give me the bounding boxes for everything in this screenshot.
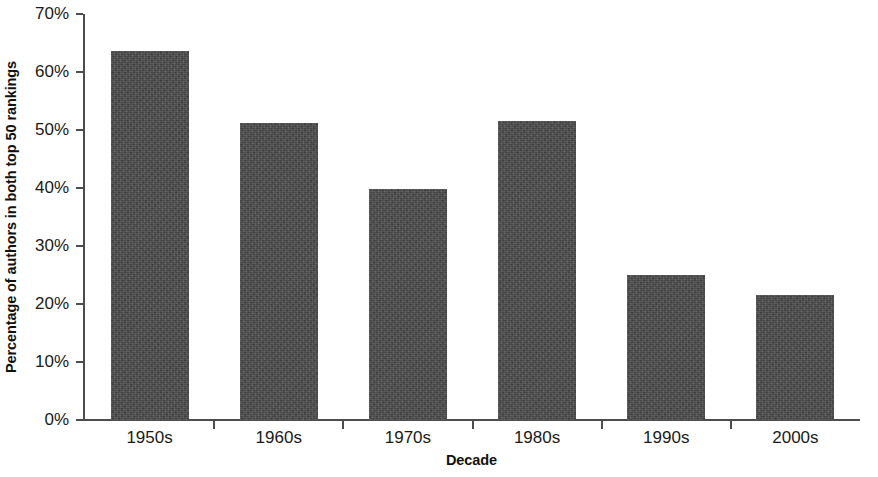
bar [369, 189, 447, 420]
y-axis-tick-label: 30% [0, 236, 76, 256]
x-axis-tick-label: 1960s [214, 428, 343, 448]
y-axis-tick-label: 10% [0, 352, 76, 372]
x-axis-tick-label: 1950s [85, 428, 214, 448]
y-axis-tick-label: 60% [0, 62, 76, 82]
x-axis-tick-label: 1980s [473, 428, 602, 448]
y-axis-tick-mark [76, 361, 83, 363]
bar-chart-figure: Percentage of authors in both top 50 ran… [0, 0, 878, 477]
y-axis-tick-label: 50% [0, 120, 76, 140]
x-axis-tick-label: 1970s [343, 428, 472, 448]
bar [240, 123, 318, 420]
y-axis-tick-label: 20% [0, 294, 76, 314]
bar [756, 295, 834, 420]
y-axis-tick-label: 70% [0, 4, 76, 24]
x-axis-tick-label: 1990s [602, 428, 731, 448]
bar [498, 121, 576, 420]
y-axis-tick-mark [76, 129, 83, 131]
y-axis-tick-label: 40% [0, 178, 76, 198]
plot-area [85, 14, 860, 420]
y-axis-tick-mark [76, 71, 83, 73]
x-axis-title: Decade [83, 452, 860, 468]
y-axis-tick-mark [76, 303, 83, 305]
x-axis-tick-label: 2000s [731, 428, 860, 448]
y-axis-tick-mark [76, 187, 83, 189]
y-axis-tick-mark [76, 419, 83, 421]
y-axis-tick-mark [76, 245, 83, 247]
bar [627, 275, 705, 420]
bar [111, 51, 189, 420]
y-axis-tick-labels: 0%10%20%30%40%50%60%70% [0, 0, 76, 477]
y-axis-tick-mark [76, 13, 83, 15]
y-axis-tick-label: 0% [0, 410, 76, 430]
